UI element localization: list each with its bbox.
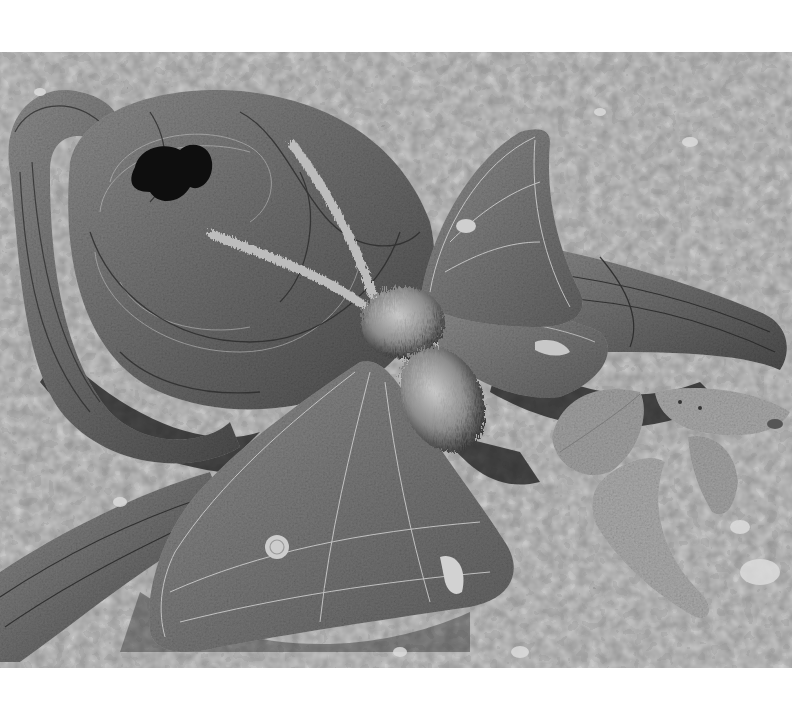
eyespot-forewing-lower xyxy=(265,535,289,559)
eyespot-forewing-upper xyxy=(456,219,476,233)
photograph xyxy=(0,52,792,668)
moth-sculpture-scene xyxy=(0,52,792,668)
